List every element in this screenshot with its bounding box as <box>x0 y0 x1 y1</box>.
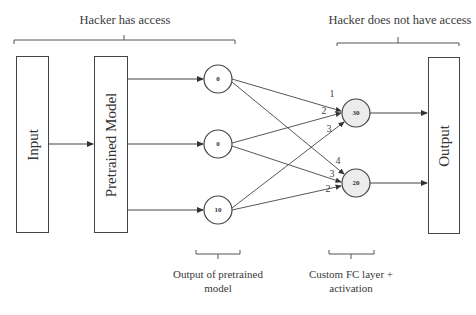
pretrained-model-label: Pretrained Model <box>103 92 120 197</box>
hidden-node-3-value: 10 <box>215 206 222 214</box>
hidden-node-1-value: 0 <box>216 75 220 83</box>
brace-custom-layer <box>329 250 374 259</box>
brace-hacker-no-access <box>337 37 459 46</box>
weight-h1-o2: 4 <box>336 155 341 166</box>
input-block-label: Input <box>24 129 41 161</box>
output-block-label: Output <box>436 125 453 167</box>
brace-pretrained-output <box>196 250 240 259</box>
weight-h3-o1: 3 <box>327 123 332 134</box>
output-node-1-value: 30 <box>353 109 360 117</box>
weight-h1-o1: 1 <box>330 88 335 99</box>
edge-h3-o1 <box>232 122 344 208</box>
label-hacker-has-access: Hacker has access <box>64 13 186 28</box>
brace-hacker-access <box>14 35 235 44</box>
pretrained-model-block: Pretrained Model <box>94 56 128 233</box>
output-block: Output <box>428 57 460 234</box>
caption-custom-layer: Custom FC layer + activation <box>296 267 406 295</box>
label-hacker-no-access: Hacker does not have access <box>320 13 476 28</box>
hidden-node-2-value: 0 <box>216 140 220 148</box>
weight-h2-o2: 3 <box>330 168 335 179</box>
edge-h2-o1 <box>232 113 341 143</box>
output-node-2-value: 20 <box>353 179 360 187</box>
edge-h2-o2 <box>232 146 341 182</box>
weight-h2-o1: 2 <box>322 105 327 116</box>
input-block: Input <box>16 56 49 233</box>
weight-h3-o2: 2 <box>326 183 331 194</box>
caption-pretrained-output: Output of pretrained model <box>168 267 268 295</box>
